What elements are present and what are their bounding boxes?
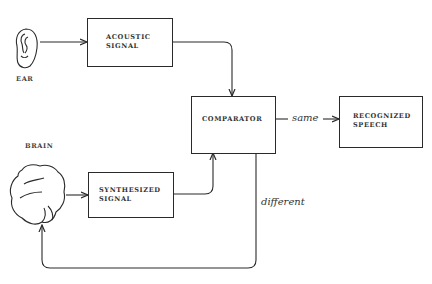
same-edge-label: same <box>292 112 319 123</box>
synthesized-signal-line2: SIGNAL <box>99 195 161 204</box>
synthesized-signal-box: SYNTHESIZED SIGNAL <box>88 172 174 218</box>
brain-label: BRAIN <box>25 142 53 150</box>
acoustic-signal-box: ACOUSTIC SIGNAL <box>87 18 173 67</box>
acoustic-signal-line2: SIGNAL <box>106 42 151 51</box>
comparator-label: COMPARATOR <box>202 115 262 124</box>
ear-icon <box>16 29 37 68</box>
ear-label: EAR <box>16 75 33 83</box>
edge-synthesized-to-comparator <box>173 153 213 194</box>
recognized-speech-line2: SPEECH <box>353 121 411 130</box>
recognized-speech-line1: RECOGNIZED <box>353 112 411 121</box>
recognized-speech-box: RECOGNIZED SPEECH <box>339 96 423 148</box>
brain-icon <box>10 165 64 224</box>
edge-acoustic-to-comparator <box>172 42 232 96</box>
comparator-box: COMPARATOR <box>191 96 276 154</box>
synthesized-signal-line1: SYNTHESIZED <box>99 186 161 195</box>
different-edge-label: different <box>261 196 305 207</box>
acoustic-signal-line1: ACOUSTIC <box>106 33 151 42</box>
